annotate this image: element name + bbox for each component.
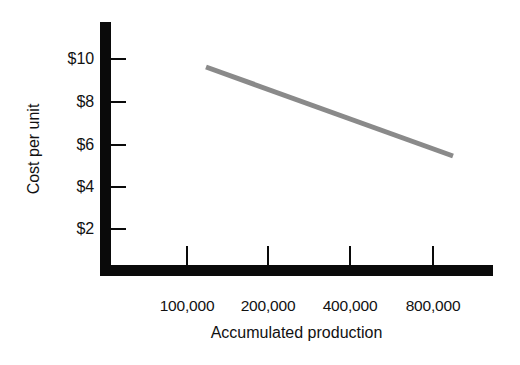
y-tick-mark <box>111 101 126 103</box>
experience-curve-chart: $10$8$6$4$2 100,000200,000400,000800,000… <box>0 0 520 365</box>
x-tick-mark <box>267 246 269 265</box>
y-axis-line <box>100 22 111 276</box>
x-tick-label: 400,000 <box>305 297 395 314</box>
y-tick-mark <box>111 186 126 188</box>
cost-curve-line <box>206 67 453 156</box>
x-axis-title: Accumulated production <box>100 324 493 342</box>
x-tick-label: 100,000 <box>142 297 232 314</box>
y-tick-mark <box>111 144 126 146</box>
x-tick-mark <box>349 246 351 265</box>
x-tick-label: 800,000 <box>388 297 478 314</box>
x-tick-mark <box>432 246 434 265</box>
x-axis-line <box>100 265 493 276</box>
y-tick-mark <box>111 58 126 60</box>
y-tick-mark <box>111 228 126 230</box>
y-axis-title: Cost per unit <box>25 59 43 239</box>
x-tick-mark <box>186 246 188 265</box>
x-tick-label: 200,000 <box>223 297 313 314</box>
